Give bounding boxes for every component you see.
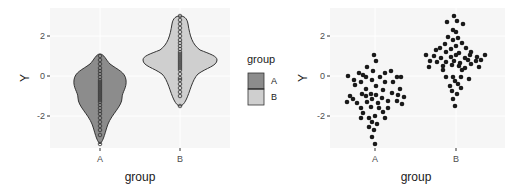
x-tick-label: A — [372, 154, 378, 164]
y-tick-label: -2 — [317, 111, 325, 121]
legend-title: group — [247, 53, 275, 65]
y-axis-title: Y — [18, 74, 32, 82]
legend-label-b: B — [271, 92, 277, 102]
x-ticks — [375, 148, 456, 151]
figure: 2 0 -2 A B group Y group A B — [0, 0, 521, 192]
x-tick-label: B — [453, 154, 459, 164]
y-tick-label: 2 — [320, 31, 325, 41]
legend-key-b — [248, 89, 264, 105]
violin-plot: 2 0 -2 A B group Y — [18, 8, 230, 184]
y-tick-label: 0 — [320, 71, 325, 81]
plot-panel — [330, 8, 505, 148]
y-tick-label: 0 — [40, 71, 45, 81]
y-tick-label: 2 — [40, 31, 45, 41]
y-ticks — [47, 36, 50, 116]
y-axis-title: Y — [296, 74, 310, 82]
y-ticks — [327, 36, 330, 116]
x-axis-title: group — [401, 170, 432, 184]
legend-key-a — [248, 73, 264, 89]
dot-plot: 2 0 -2 A B group Y — [296, 8, 505, 184]
x-ticks — [100, 148, 180, 151]
x-tick-label: B — [177, 154, 183, 164]
x-axis-title: group — [125, 170, 156, 184]
legend-label-a: A — [271, 76, 277, 86]
y-tick-label: -2 — [37, 111, 45, 121]
x-tick-label: A — [97, 154, 103, 164]
legend: group A B — [247, 53, 277, 105]
